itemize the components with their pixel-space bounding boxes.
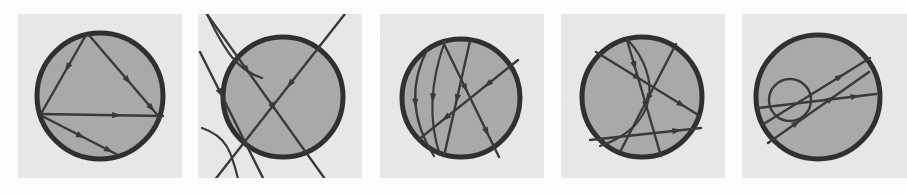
panel-5-content — [756, 35, 880, 159]
panel-4[interactable] — [561, 14, 725, 178]
panel-4-content — [582, 37, 702, 157]
panel-5[interactable] — [742, 14, 907, 178]
panel-3[interactable] — [380, 14, 544, 178]
panel-5-disk — [756, 35, 880, 159]
panel-1-disk — [37, 33, 163, 159]
panel-3-content — [402, 39, 520, 157]
panel-1-content — [37, 33, 163, 159]
panel-1[interactable] — [18, 14, 182, 178]
figure-strip — [0, 0, 907, 194]
panel-2[interactable] — [198, 10, 362, 188]
panel-2-disk — [223, 37, 343, 157]
